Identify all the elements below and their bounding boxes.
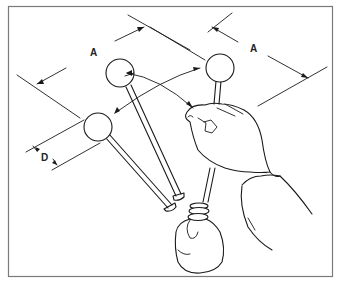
- dimension-a-right: A: [150, 13, 327, 106]
- dimension-a-left: A: [17, 15, 190, 118]
- figure-border: [9, 7, 333, 277]
- shift-lever-ball-lower-left: [84, 113, 176, 211]
- lever-boot: [175, 203, 223, 273]
- dimension-a-right-label: A: [250, 43, 257, 54]
- dimension-a-left-label: A: [90, 47, 97, 58]
- dimension-d-label: D: [41, 152, 48, 163]
- shift-lever-ball-left-top: [106, 59, 184, 200]
- diagram-figure: A A D: [0, 0, 339, 281]
- shift-lever-ball-right: [203, 54, 234, 202]
- hand: [186, 103, 312, 250]
